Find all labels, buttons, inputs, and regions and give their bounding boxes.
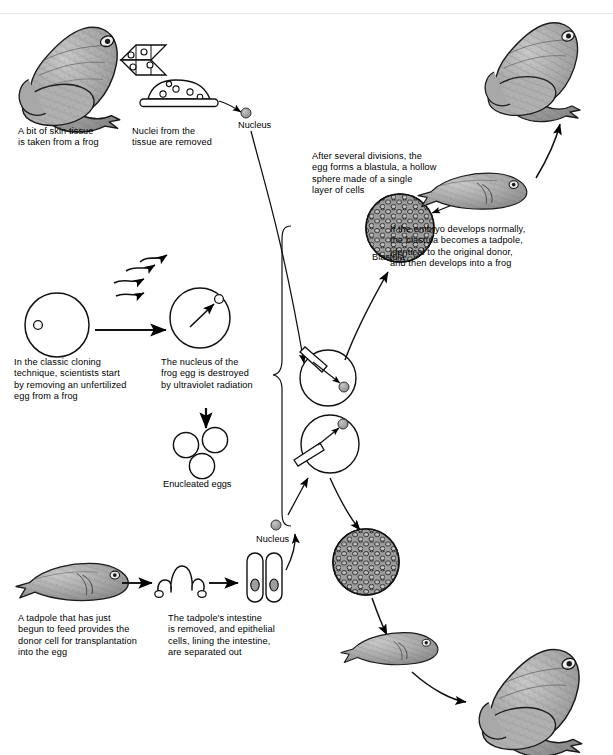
enucleated-eggs-illustration: [173, 427, 227, 478]
arrow-upper-egg-to-blastula: [345, 272, 388, 360]
caption-nuclei-removed: Nuclei from the tissue are removed: [132, 126, 212, 149]
label-blastula: Blastula: [372, 252, 405, 263]
arrow-dish-to-nucleus: [219, 101, 241, 112]
chromosome-cluster-illustration: [121, 45, 166, 75]
donor-tadpole-illustration: [16, 563, 128, 600]
label-nucleus-top: Nucleus: [238, 120, 271, 131]
label-enucleated-eggs: Enucleated eggs: [163, 479, 231, 490]
arrow-tadpole-to-frog-upper: [536, 124, 560, 178]
caption-uv-destroyed: The nucleus of the frog egg is destroyed…: [161, 357, 253, 391]
injected-egg-lower-illustration: [294, 415, 359, 473]
caption-classic-technique: In the classic cloning technique, scient…: [14, 357, 127, 402]
arrow-lower-egg-to-blastula: [330, 478, 360, 530]
epithelial-cells-illustration: [247, 553, 282, 602]
tissue-dish-illustration: [140, 80, 218, 107]
tadpole-lower-illustration: [341, 633, 438, 665]
unfertilized-egg-illustration: [25, 293, 89, 357]
arrow-nucleus-to-upper-egg: [251, 131, 304, 363]
donor-frog-illustration: [19, 27, 120, 132]
intestine-illustration: [155, 566, 206, 597]
grouping-brace: [273, 226, 291, 526]
diagram-canvas: A bit of skin tissue is taken from a fro…: [0, 0, 613, 755]
adult-frog-upper-illustration: [485, 23, 580, 122]
arrow-blastula-to-tadpole-lower: [372, 598, 387, 635]
adult-frog-lower-illustration: [479, 649, 581, 755]
caption-tadpole-donor: A tadpole that has just begun to feed pr…: [18, 613, 137, 658]
nucleus-marker-bottom: [271, 520, 281, 530]
nucleus-marker-top: [241, 108, 251, 118]
caption-intestine-removed: The tadpole's intestine is removed, and …: [168, 613, 275, 658]
caption-embryo-normal: If the embryo develops normally, the bla…: [390, 224, 525, 269]
arrow-nucleus-to-lower-egg: [288, 478, 308, 515]
blastula-lower-illustration: [331, 527, 401, 597]
uv-irradiated-egg-illustration: [170, 288, 230, 348]
uv-radiation-arrows: [114, 255, 167, 296]
arrow-tadpole-to-frog-lower: [412, 672, 466, 702]
caption-skin-tissue: A bit of skin tissue is taken from a fro…: [18, 126, 99, 149]
injected-egg-upper-illustration: [300, 347, 356, 406]
label-nucleus-bottom: Nucleus: [256, 534, 289, 545]
caption-after-divisions: After several divisions, the egg forms a…: [312, 151, 437, 196]
